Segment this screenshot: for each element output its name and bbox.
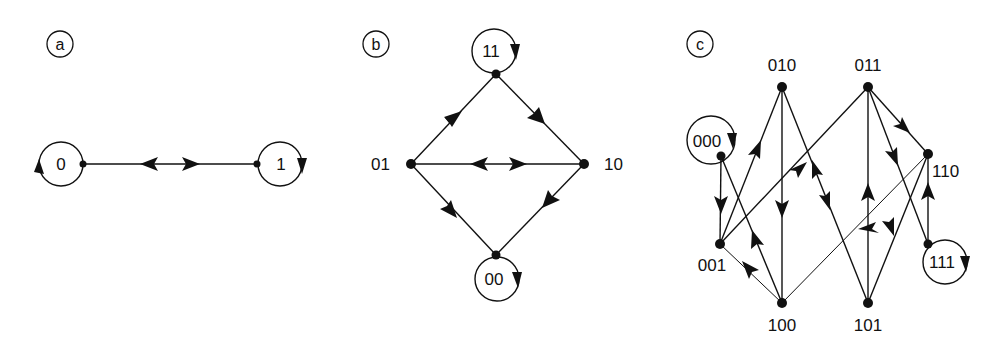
panel-c: c <box>687 31 970 335</box>
self-loop-arrow <box>297 158 307 174</box>
node-010: 010 <box>768 56 796 92</box>
svg-text:10: 10 <box>604 155 623 174</box>
svg-text:01: 01 <box>371 155 390 174</box>
arrow-10-00 <box>542 190 560 208</box>
svg-text:11: 11 <box>482 42 500 61</box>
svg-text:00: 00 <box>485 270 504 289</box>
node-0: 0 <box>34 142 87 186</box>
node-101: 101 <box>854 298 882 335</box>
svg-text:111: 111 <box>929 253 955 272</box>
self-loop-arrow <box>34 159 44 174</box>
svg-text:000: 000 <box>693 132 721 151</box>
svg-text:011: 011 <box>854 56 881 75</box>
panel-a: a 0 1 <box>34 31 307 186</box>
svg-text:101: 101 <box>854 316 882 335</box>
svg-text:001: 001 <box>698 256 726 275</box>
node-011: 011 <box>854 56 881 92</box>
svg-text:110: 110 <box>932 162 959 181</box>
node-001: 001 <box>698 239 726 275</box>
svg-text:c: c <box>696 36 704 53</box>
panel-b: b 11 01 10 <box>363 29 623 301</box>
arrow-00-01 <box>440 200 457 218</box>
svg-text:b: b <box>372 36 381 53</box>
panel-label-c: c <box>687 31 713 57</box>
node-01: 01 <box>371 155 416 174</box>
arrowheads-c <box>714 117 935 279</box>
state-transition-diagrams: a 0 1 b <box>0 0 1005 350</box>
node-10: 10 <box>579 155 623 174</box>
panel-label-a: a <box>47 31 73 57</box>
node-000: 000 <box>687 116 737 164</box>
svg-text:a: a <box>56 36 65 53</box>
panel-label-b: b <box>363 31 389 57</box>
svg-text:1: 1 <box>276 155 285 174</box>
node-1: 1 <box>254 142 308 186</box>
node-00: 00 <box>475 251 522 302</box>
node-11: 11 <box>472 29 520 79</box>
svg-text:100: 100 <box>768 316 796 335</box>
node-100: 100 <box>768 298 796 335</box>
node-111: 111 <box>923 240 970 285</box>
svg-text:010: 010 <box>768 56 796 75</box>
svg-text:0: 0 <box>56 155 65 174</box>
arrow-11-10 <box>527 107 545 124</box>
